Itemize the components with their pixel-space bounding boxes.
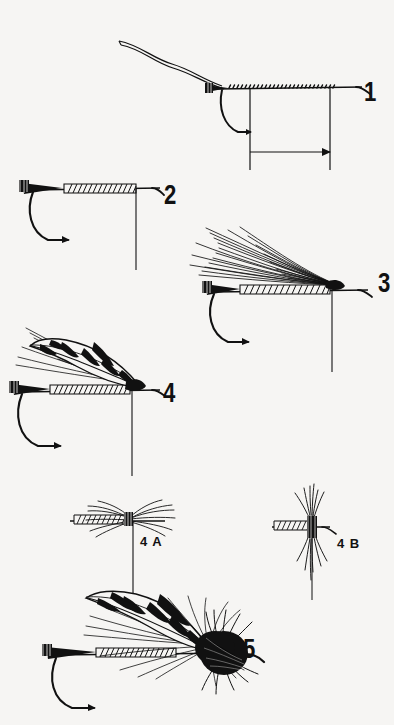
diagram-canvas [0, 0, 394, 725]
step-label-3: 3 [378, 270, 390, 297]
detail-label-4b: 4 B [337, 537, 360, 550]
fly-tying-diagram: 1 2 3 4 5 4 A 4 B [0, 0, 394, 725]
detail-label-4a: 4 A [140, 535, 163, 548]
step-5-illustration [42, 591, 264, 711]
detail-4a-illustration [70, 500, 175, 600]
step-label-5: 5 [243, 636, 255, 663]
step-label-1: 1 [364, 79, 376, 106]
step-4-illustration [9, 328, 166, 476]
step-label-2: 2 [164, 182, 176, 209]
step-label-4: 4 [163, 380, 175, 407]
detail-4b-illustration [272, 484, 336, 600]
step-2-illustration [19, 179, 164, 270]
step-3-illustration [190, 227, 372, 372]
step-1-illustration [119, 41, 370, 170]
